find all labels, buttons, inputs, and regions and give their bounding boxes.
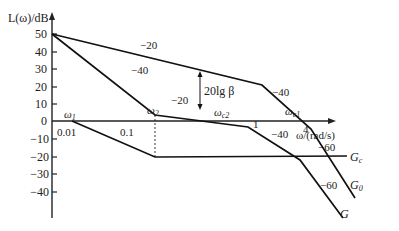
slope-G-4: −60 [320,179,338,191]
y-tick-labels: 50 40 30 20 10 0 −10 −20 −30 −40 [30,27,49,199]
y-tick-m40: −40 [30,185,49,199]
y-tick-m10: −10 [30,132,49,146]
y-tick-20: 20 [35,80,47,94]
slope-G-1: −40 [131,64,149,76]
x-tick-0.1: 0.1 [120,126,134,138]
arrow-up-icon [198,71,203,77]
label-Gc: Gc [350,150,363,165]
label-G0: G0 [350,178,363,193]
label-G: G [340,207,349,221]
omega1-label: ω1 [64,108,76,122]
bode-diagram: 50 40 30 20 10 0 −10 −20 −30 −40 L(ω)/dB… [0,0,399,231]
y-tick-0: 0 [41,114,47,128]
y-tick-50: 50 [35,27,47,41]
y-ticks [52,34,57,192]
x-tick-0.01: 0.01 [57,126,76,138]
slope-G0-3: −60 [318,141,336,153]
y-tick-40: 40 [35,45,47,59]
x-axis-arrow-icon [328,118,336,124]
omega2-label: ω2 [147,104,159,118]
y-tick-m30: −30 [30,167,49,181]
x-tick-1: 1 [253,118,259,130]
y-axis-arrow-icon [49,12,55,20]
slope-G0-2: −40 [272,86,290,98]
y-tick-30: 30 [35,62,47,76]
gain-gap-label: 20lg β [204,84,234,98]
y-tick-m20: −20 [30,150,49,164]
y-axis-title: L(ω)/dB [8,11,49,25]
slope-G-2: −20 [171,94,189,106]
omegac1-label: ωc1 [285,105,300,119]
curve-G [52,34,343,218]
curve-labels: Gc G0 G [340,150,363,221]
y-tick-10: 10 [35,97,47,111]
slope-G0-1: −20 [140,39,158,51]
slope-G-3: −40 [271,128,289,140]
arrow-down-icon [198,104,203,110]
omegac2-label: ωc2 [214,106,229,120]
